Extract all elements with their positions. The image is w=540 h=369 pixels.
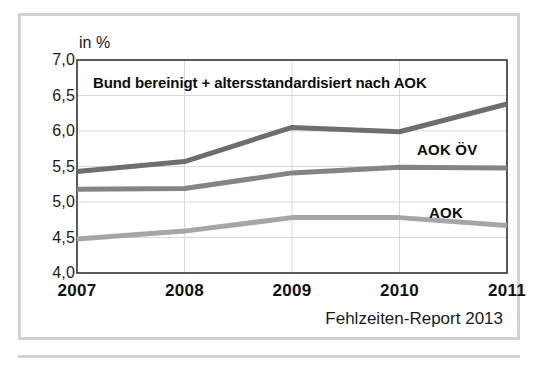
series-label-aok: AOK (429, 204, 463, 221)
bottom-divider (18, 355, 520, 358)
x-tick-label: 2010 (380, 281, 419, 301)
x-axis-tick-labels: 20072008200920102011 (21, 16, 517, 337)
x-tick-label: 2009 (272, 281, 311, 301)
source-note: Fehlzeiten-Report 2013 (325, 309, 503, 329)
plot-title: Bund bereinigt + altersstandardisiert na… (93, 74, 427, 91)
chart-plot-area: in % 4,04,55,05,56,06,57,0 2007200820092… (21, 16, 517, 337)
chart-figure: in % 4,04,55,05,56,06,57,0 2007200820092… (18, 13, 520, 340)
x-tick-label: 2007 (57, 281, 96, 301)
x-tick-label: 2011 (488, 281, 526, 301)
x-tick-label: 2008 (165, 281, 204, 301)
series-label-aok-oev: AOK ÖV (417, 141, 477, 158)
